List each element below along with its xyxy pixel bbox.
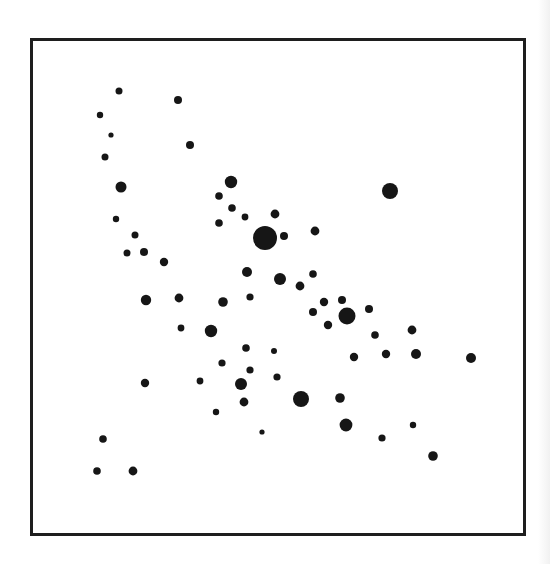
data-point <box>242 214 249 221</box>
data-point <box>102 154 109 161</box>
data-point <box>339 308 356 325</box>
data-point <box>411 349 421 359</box>
data-point <box>309 308 317 316</box>
data-point <box>320 298 328 306</box>
data-point <box>271 210 280 219</box>
data-point <box>97 112 103 118</box>
data-point <box>253 226 277 250</box>
data-point <box>309 270 317 278</box>
data-point <box>132 232 139 239</box>
data-point <box>242 344 250 352</box>
data-point <box>296 282 305 291</box>
data-point <box>215 192 223 200</box>
data-point <box>213 409 219 415</box>
data-point <box>228 204 236 212</box>
data-point <box>378 434 385 441</box>
data-point <box>350 353 358 361</box>
data-points <box>93 88 476 476</box>
data-point <box>175 294 184 303</box>
data-point <box>280 232 288 240</box>
data-point <box>129 467 138 476</box>
data-point <box>246 366 253 373</box>
data-point <box>141 295 151 305</box>
data-point <box>428 451 438 461</box>
data-point <box>242 267 252 277</box>
data-point <box>174 96 182 104</box>
data-point <box>205 325 217 337</box>
data-point <box>246 293 253 300</box>
data-point <box>274 273 286 285</box>
data-point <box>311 227 320 236</box>
data-point <box>371 331 379 339</box>
data-point <box>235 378 247 390</box>
data-point <box>215 219 223 227</box>
data-point <box>225 176 237 188</box>
data-point <box>140 248 148 256</box>
data-point <box>116 88 123 95</box>
data-point <box>273 373 280 380</box>
data-point <box>408 326 417 335</box>
data-point <box>99 435 107 443</box>
data-point <box>124 250 131 257</box>
data-point <box>240 398 249 407</box>
data-point <box>116 182 127 193</box>
data-point <box>466 353 476 363</box>
data-point <box>178 325 185 332</box>
data-point <box>338 296 346 304</box>
data-point <box>197 378 204 385</box>
scatter-plot <box>0 0 550 564</box>
data-point <box>335 393 345 403</box>
data-point <box>259 429 264 434</box>
data-point <box>382 350 390 358</box>
data-point <box>218 359 225 366</box>
data-point <box>410 422 416 428</box>
data-point <box>218 297 228 307</box>
data-point <box>186 141 194 149</box>
data-point <box>271 348 277 354</box>
data-point <box>382 183 398 199</box>
data-point <box>113 216 119 222</box>
data-point <box>293 391 309 407</box>
data-point <box>141 379 149 387</box>
data-point <box>340 419 353 432</box>
data-point <box>324 321 332 329</box>
data-point <box>160 258 168 266</box>
data-point <box>108 132 113 137</box>
data-point <box>93 467 101 475</box>
data-point <box>365 305 373 313</box>
